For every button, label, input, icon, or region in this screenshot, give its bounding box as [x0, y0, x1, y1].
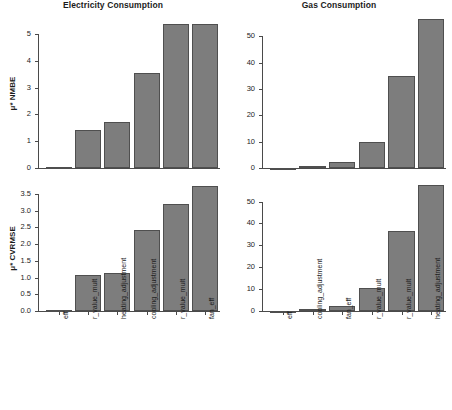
panel-title-electricity: Electricity Consumption — [0, 0, 226, 10]
y-tick-label: 0.5 — [5, 290, 31, 298]
x-tick-mark — [431, 312, 432, 315]
x-tick-label: heating_adjustment — [434, 258, 441, 319]
y-tick-label: 30 — [229, 85, 255, 93]
y-tick-mark — [259, 223, 262, 224]
y-axis-label-nmbe: μ* NMBE — [8, 59, 17, 129]
y-tick-label: 2.5 — [5, 223, 31, 231]
y-tick-mark — [35, 114, 38, 115]
y-tick-label: 2.0 — [5, 240, 31, 248]
x-tick-label: r_value_mult — [179, 279, 186, 319]
y-tick-label: 20 — [229, 263, 255, 271]
x-tick-mark — [342, 312, 343, 315]
x-tick-label: r_value_mult — [405, 279, 412, 319]
figure-canvas: Electricity Consumption μ* NMBE 012345 G… — [0, 0, 452, 410]
y-tick-mark — [35, 211, 38, 212]
y-tick-mark — [35, 88, 38, 89]
bar — [329, 162, 355, 168]
y-tick-mark — [35, 294, 38, 295]
y-tick-label: 5 — [5, 30, 31, 38]
y-tick-mark — [35, 141, 38, 142]
y-tick-label: 0.0 — [5, 307, 31, 315]
panel-gas-cvrmse: 01020304050effcooling_adjustmentfan_effr… — [226, 180, 452, 410]
bar — [388, 76, 414, 168]
y-tick-mark — [259, 142, 262, 143]
y-tick-label: 50 — [229, 32, 255, 40]
y-tick-label: 3.0 — [5, 207, 31, 215]
x-tick-label: fan_eff — [208, 298, 215, 319]
panel-electricity-cvrmse: μ* CVRMSE 0.00.51.01.52.02.53.03.5effr_v… — [0, 180, 226, 410]
panel-electricity-nmbe: Electricity Consumption μ* NMBE 012345 — [0, 0, 226, 180]
x-tick-label: eff — [286, 311, 293, 319]
y-tick-mark — [259, 115, 262, 116]
y-tick-mark — [259, 63, 262, 64]
panel-gas-nmbe: Gas Consumption 01020304050 — [226, 0, 452, 180]
bar — [104, 122, 130, 168]
y-tick-mark — [259, 267, 262, 268]
bar — [192, 24, 218, 168]
y-axis-line — [38, 194, 39, 311]
y-tick-label: 3 — [5, 84, 31, 92]
y-tick-label: 50 — [229, 198, 255, 206]
bar — [418, 19, 444, 168]
y-tick-label: 1.0 — [5, 274, 31, 282]
y-tick-mark — [35, 227, 38, 228]
y-tick-label: 20 — [229, 111, 255, 119]
y-tick-label: 2 — [5, 110, 31, 118]
bar — [270, 168, 296, 170]
bar — [75, 130, 101, 168]
y-tick-label: 4 — [5, 57, 31, 65]
y-tick-label: 10 — [229, 138, 255, 146]
y-tick-label: 0 — [5, 164, 31, 172]
y-tick-mark — [259, 89, 262, 90]
x-tick-mark — [205, 312, 206, 315]
y-tick-mark — [259, 289, 262, 290]
x-tick-label: heating_adjustment — [120, 258, 127, 319]
x-tick-label: eff — [62, 311, 69, 319]
bar — [359, 142, 385, 168]
y-tick-mark — [35, 194, 38, 195]
y-axis-line — [262, 36, 263, 168]
y-tick-label: 1 — [5, 137, 31, 145]
bar — [192, 186, 218, 311]
y-tick-mark — [35, 61, 38, 62]
y-tick-mark — [35, 261, 38, 262]
y-tick-label: 40 — [229, 219, 255, 227]
y-tick-mark — [35, 34, 38, 35]
x-tick-mark — [176, 312, 177, 315]
x-tick-mark — [283, 312, 284, 315]
x-tick-label: cooling_adjustment — [316, 259, 323, 319]
y-tick-label: 3.5 — [5, 190, 31, 198]
bar — [163, 24, 189, 168]
x-tick-mark — [372, 312, 373, 315]
y-tick-label: 1.5 — [5, 257, 31, 265]
x-tick-label: r_value_mult — [375, 279, 382, 319]
y-tick-mark — [35, 244, 38, 245]
y-tick-label: 0 — [229, 307, 255, 315]
x-tick-mark — [88, 312, 89, 315]
y-tick-label: 40 — [229, 59, 255, 67]
panel-title-gas: Gas Consumption — [226, 0, 452, 10]
bar — [299, 166, 325, 168]
y-axis-line — [38, 34, 39, 168]
y-tick-label: 10 — [229, 285, 255, 293]
x-tick-mark — [117, 312, 118, 315]
x-tick-mark — [59, 312, 60, 315]
x-tick-label: cooling_adjustment — [150, 259, 157, 319]
y-axis-line — [262, 202, 263, 311]
x-tick-label: fan_eff — [345, 298, 352, 319]
x-tick-mark — [402, 312, 403, 315]
x-tick-label: r_value_mult — [91, 279, 98, 319]
y-tick-mark — [35, 278, 38, 279]
y-tick-mark — [259, 36, 262, 37]
y-tick-mark — [259, 245, 262, 246]
x-tick-mark — [313, 312, 314, 315]
bar — [46, 167, 72, 169]
y-tick-mark — [259, 202, 262, 203]
y-tick-label: 30 — [229, 241, 255, 249]
y-tick-label: 0 — [229, 164, 255, 172]
x-tick-mark — [147, 312, 148, 315]
bar — [134, 73, 160, 168]
